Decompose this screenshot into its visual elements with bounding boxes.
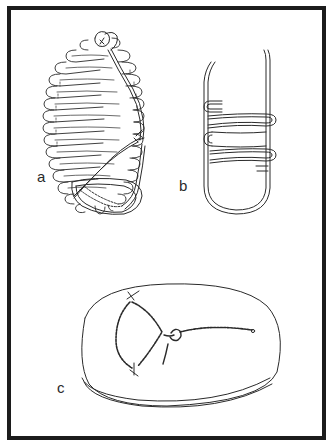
panel-a-drawing [43, 32, 145, 215]
panel-label-c: c [57, 380, 65, 395]
panel-label-a: a [37, 169, 45, 184]
panel-b-drawing [204, 50, 276, 214]
panel-label-b: b [179, 178, 187, 193]
wrapping-cord [72, 32, 145, 215]
figure-illustration [0, 0, 331, 445]
panel-c-drawing [82, 284, 281, 407]
